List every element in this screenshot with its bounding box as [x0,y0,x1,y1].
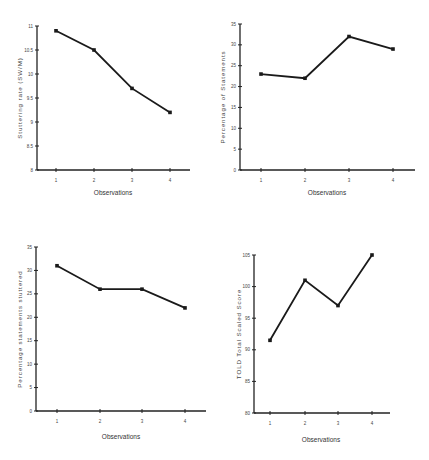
y-tick-label: 90 [245,347,251,352]
y-tick-label: 30 [27,268,33,273]
y-tick-label: 10.5 [24,48,33,53]
x-tick-label: 3 [348,178,351,183]
data-point [336,304,340,308]
y-tick-label: 9.5 [27,96,34,101]
chart-svg: 05101520253035 1234 Observations Percent… [0,235,215,460]
data-point [259,72,263,76]
y-tick-label: 5 [233,147,236,152]
y-axis-label: TOLD Total Scaled Score [235,289,242,379]
y-tick-label: 35 [27,245,33,250]
y-tick-label: 30 [231,42,237,47]
y-tick-label: 10 [28,72,34,77]
data-line [57,266,185,308]
y-tick-label: 5 [29,385,32,390]
data-point [183,306,187,310]
data-point [347,35,351,39]
y-tick-label: 0 [233,168,236,173]
x-tick-label: 3 [337,421,340,426]
y-tick-label: 15 [231,105,237,110]
chart-stuttering-rate: 88.599.51010.511 1234 Observations Stutt… [0,0,215,220]
chart-told-score: 80859095100105 1234 Observations TOLD To… [215,235,429,460]
x-tick-label: 4 [184,419,187,424]
x-axis-label: Observations [308,189,347,196]
chart-svg: 88.599.51010.511 1234 Observations Stutt… [0,0,215,220]
x-tick-label: 4 [371,421,374,426]
chart-percentage-stuttered: 05101520253035 1234 Observations Percent… [0,235,215,460]
x-tick-label: 4 [169,178,172,183]
y-tick-label: 95 [245,316,251,321]
data-point [370,253,374,257]
y-tick-label: 15 [27,338,33,343]
y-tick-label: 80 [245,411,251,416]
y-tick-label: 9 [30,120,33,125]
y-tick-label: 20 [231,84,237,89]
data-point [130,87,134,91]
x-axis-label: Observations [302,436,341,443]
y-tick-label: 8.5 [27,144,34,149]
data-point [92,48,96,52]
chart-svg: 05101520253035 1234 Observations Percent… [215,0,429,220]
data-markers [55,264,187,310]
y-axis-label: Percentage of Statements [219,50,226,143]
data-point [55,264,59,268]
y-tick-label: 10 [27,362,33,367]
y-axis-label: Percentage statements stuttered [16,270,23,387]
y-tick-label: 25 [27,291,33,296]
data-markers [268,253,374,342]
x-tick-label: 4 [392,178,395,183]
x-tick-label: 1 [55,178,58,183]
y-tick-label: 85 [245,379,251,384]
x-tick-label: 2 [99,419,102,424]
y-tick-label: 0 [29,409,32,414]
x-tick-label: 3 [131,178,134,183]
y-tick-label: 20 [27,315,33,320]
data-point [140,287,144,291]
x-tick-label: 2 [304,178,307,183]
x-tick-label: 3 [141,419,144,424]
x-tick-label: 1 [56,419,59,424]
y-tick-label: 25 [231,63,237,68]
data-line [261,37,393,79]
x-tick-label: 1 [269,421,272,426]
y-tick-label: 10 [231,126,237,131]
y-axis-label: Stuttering rate (SW/M) [16,57,23,138]
x-tick-label: 1 [260,178,263,183]
y-tick-label: 105 [242,253,250,258]
chart-svg: 80859095100105 1234 Observations TOLD To… [215,235,429,460]
data-point [168,111,172,115]
data-point [391,47,395,51]
x-axis-label: Observations [94,189,133,196]
y-tick-label: 100 [242,284,250,289]
x-tick-label: 2 [93,178,96,183]
y-tick-label: 35 [231,22,237,27]
chart-percentage-statements: 05101520253035 1234 Observations Percent… [215,0,429,220]
x-tick-label: 2 [304,421,307,426]
y-tick-label: 11 [28,24,33,29]
data-line [270,255,372,340]
data-point [98,287,102,291]
y-tick-label: 8 [30,168,33,173]
data-point [303,76,307,80]
data-line [56,31,170,113]
x-axis-label: Observations [102,433,141,440]
data-point [54,29,58,33]
data-point [303,278,307,282]
data-point [268,339,272,343]
